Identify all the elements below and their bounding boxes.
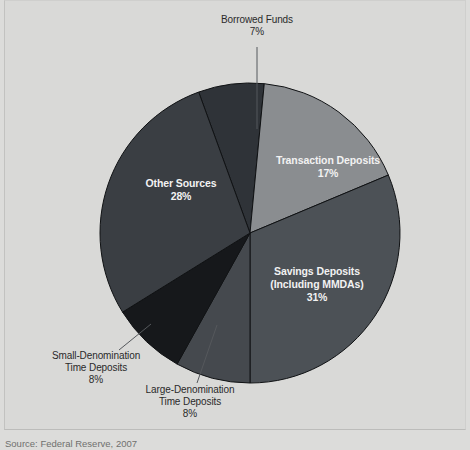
- pie-chart-figure: Borrowed Funds7%Transaction Deposits17%S…: [0, 0, 470, 450]
- pie-label-borrowed-funds: Borrowed Funds7%: [221, 14, 293, 37]
- pie-label-large-denomination-time-deposits: Large-DenominationTime Deposits8%: [146, 384, 235, 419]
- pie-label-small-denomination-time-deposits: Small-DenominationTime Deposits8%: [52, 350, 140, 385]
- source-note: Source: Federal Reserve, 2007: [5, 438, 137, 449]
- pie-chart-svg: Borrowed Funds7%Transaction Deposits17%S…: [5, 1, 466, 430]
- pie-slices-group: [100, 83, 400, 383]
- chart-plot-area: Borrowed Funds7%Transaction Deposits17%S…: [4, 0, 466, 430]
